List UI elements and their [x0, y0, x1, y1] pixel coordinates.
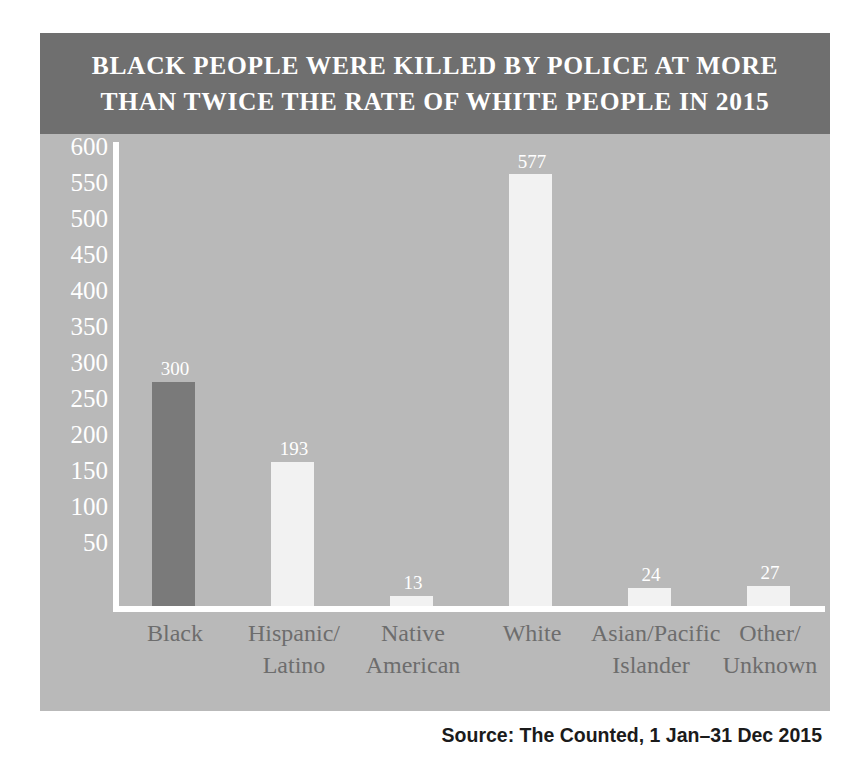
- y-tick-100: 100: [40, 494, 108, 519]
- y-tick-550: 550: [40, 170, 108, 195]
- x-label-other-unknown: Other/ Unknown: [710, 618, 830, 681]
- plot-area: 600 550 500 450 400 350 300 250 200 150 …: [40, 134, 830, 711]
- bar-value-hispanic-latino: 193: [238, 439, 350, 458]
- source-attribution: Source: The Counted, 1 Jan–31 Dec 2015: [442, 724, 822, 747]
- x-label-hispanic-latino-line-1: Hispanic/: [234, 618, 354, 650]
- chart-title-line-1: BLACK PEOPLE WERE KILLED BY POLICE AT MO…: [92, 48, 779, 83]
- bar-hispanic-latino: [271, 462, 314, 606]
- y-tick-600: 600: [40, 134, 108, 159]
- bar-series: 300 193 13 577 24 27: [119, 142, 825, 606]
- bar-slot-black: 300: [119, 142, 231, 606]
- bar-value-black: 300: [119, 359, 231, 378]
- x-label-native-american: Native American: [353, 618, 473, 681]
- x-label-hispanic-latino-line-2: Latino: [234, 650, 354, 682]
- bar-slot-hispanic-latino: 193: [238, 142, 350, 606]
- bar-value-native-american: 13: [357, 573, 469, 592]
- y-tick-250: 250: [40, 386, 108, 411]
- x-label-black-line-1: Black: [115, 618, 235, 650]
- x-axis-line: [113, 606, 825, 612]
- x-label-black: Black: [115, 618, 235, 650]
- y-tick-350: 350: [40, 314, 108, 339]
- bar-slot-other-unknown: 27: [714, 142, 826, 606]
- x-label-asian-pacific-islander-line-1: Asian/Pacific: [591, 618, 711, 650]
- y-axis-tick-labels: 600 550 500 450 400 350 300 250 200 150 …: [40, 134, 108, 579]
- x-axis-category-labels: Black Hispanic/ Latino Native American W…: [119, 618, 825, 698]
- x-label-native-american-line-1: Native: [353, 618, 473, 650]
- y-tick-500: 500: [40, 206, 108, 231]
- bar-asian-pacific-islander: [628, 588, 671, 606]
- x-label-white-line-1: White: [472, 618, 592, 650]
- x-label-hispanic-latino: Hispanic/ Latino: [234, 618, 354, 681]
- x-label-native-american-line-2: American: [353, 650, 473, 682]
- x-label-white: White: [472, 618, 592, 650]
- x-label-asian-pacific-islander-line-2: Islander: [591, 650, 711, 682]
- y-tick-400: 400: [40, 278, 108, 303]
- chart-figure: BLACK PEOPLE WERE KILLED BY POLICE AT MO…: [40, 33, 830, 711]
- bar-value-white: 577: [476, 152, 588, 171]
- chart-title-line-2: THAN TWICE THE RATE OF WHITE PEOPLE IN 2…: [100, 84, 769, 119]
- bar-other-unknown: [747, 586, 790, 606]
- bar-value-other-unknown: 27: [714, 563, 826, 582]
- y-tick-50: 50: [40, 530, 108, 555]
- bar-native-american: [390, 596, 433, 606]
- y-tick-300: 300: [40, 350, 108, 375]
- x-label-other-unknown-line-2: Unknown: [710, 650, 830, 682]
- bar-slot-native-american: 13: [357, 142, 469, 606]
- bar-black: [152, 382, 195, 606]
- bar-slot-white: 577: [476, 142, 588, 606]
- x-label-other-unknown-line-1: Other/: [710, 618, 830, 650]
- bar-value-asian-pacific-islander: 24: [595, 565, 707, 584]
- bar-white: [509, 174, 552, 606]
- y-tick-150: 150: [40, 458, 108, 483]
- y-tick-450: 450: [40, 242, 108, 267]
- chart-title-band: BLACK PEOPLE WERE KILLED BY POLICE AT MO…: [40, 33, 830, 134]
- y-tick-200: 200: [40, 422, 108, 447]
- bar-slot-asian-pacific-islander: 24: [595, 142, 707, 606]
- x-label-asian-pacific-islander: Asian/Pacific Islander: [591, 618, 711, 681]
